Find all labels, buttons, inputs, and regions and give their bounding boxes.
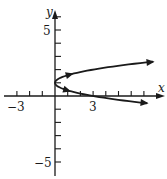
upper-branch-end-arrow-icon [146,59,154,66]
direction-arrows [52,10,165,106]
axis-ticks [17,17,144,162]
parametric-curve-plot: y x −3 3 5 −5 [0,0,167,179]
lower-branch-end-arrow-icon [140,99,148,106]
lower-branch-mid-arrow-icon [62,86,71,93]
y-axis-label: y [45,5,53,19]
x-axis-label: x [158,81,165,95]
parabola-curve [55,62,153,104]
axes [4,14,160,176]
x-tick-label-3: 3 [89,100,97,114]
x-tick-label-neg3: −3 [7,100,25,114]
y-tick-label-neg5: −5 [34,156,52,170]
y-axis-arrow-icon [52,10,58,19]
y-tick-label-5: 5 [43,24,51,38]
